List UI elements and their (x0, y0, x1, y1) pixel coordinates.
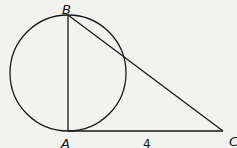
segment-bc (68, 15, 223, 131)
length-ac: 4 (143, 137, 151, 148)
label-a: A (60, 136, 70, 148)
geometry-diagram: B A C 4 (0, 0, 237, 148)
label-c: C (229, 134, 237, 148)
label-b: B (62, 2, 71, 17)
